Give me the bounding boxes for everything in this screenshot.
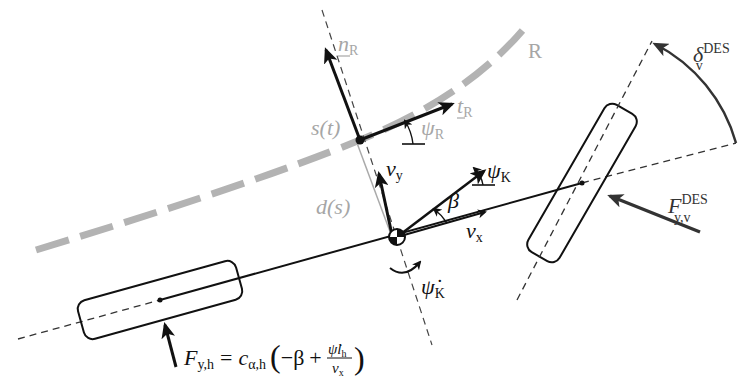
vehicle-model-diagram: R nR tR ψR s(t) d(s) vy ψK β vx ψ̇K δDES… bbox=[0, 0, 755, 388]
rear-axis-dashed bbox=[18, 300, 160, 339]
rear-force-equation: Fy,h=cα,h(−β+ bbox=[183, 338, 322, 374]
beta-angle-arc bbox=[434, 209, 447, 223]
reference-path-label: R bbox=[528, 39, 542, 63]
psi-r-angle-arc bbox=[405, 121, 413, 144]
arc-length-label: s(t) bbox=[311, 115, 340, 140]
reference-path-curve bbox=[36, 25, 527, 250]
lateral-offset-label: d(s) bbox=[316, 194, 350, 219]
rear-axle-point bbox=[158, 298, 163, 303]
steering-angle-label: δDESv bbox=[693, 41, 730, 73]
sideslip-angle-label: β bbox=[447, 188, 459, 213]
front-axle-point bbox=[580, 181, 585, 186]
longitudinal-velocity-label: vx bbox=[466, 218, 483, 245]
equation-fraction-denominator: vx bbox=[332, 360, 344, 378]
vehicle-heading-label: ψK bbox=[487, 158, 511, 185]
tangent-vector-label: tR bbox=[457, 93, 473, 120]
front-lateral-force-label: FDESy,v bbox=[667, 192, 708, 225]
path-heading-label: ψR bbox=[421, 115, 445, 142]
lateral-velocity-label: vy bbox=[386, 156, 403, 183]
vy-arrow bbox=[379, 174, 392, 235]
equation-close-paren: ) bbox=[354, 340, 365, 376]
normal-vector-label: nR bbox=[338, 31, 359, 58]
center-of-gravity-symbol bbox=[389, 229, 405, 245]
rear-lateral-force-arrow bbox=[165, 325, 176, 367]
cog-normal-dashed bbox=[322, 10, 432, 345]
equation-fraction-numerator: ψ̇lh bbox=[328, 341, 346, 359]
path-frame-origin bbox=[356, 136, 365, 145]
yaw-rate-label: ψ̇K bbox=[421, 274, 445, 301]
chassis-line bbox=[160, 183, 582, 300]
